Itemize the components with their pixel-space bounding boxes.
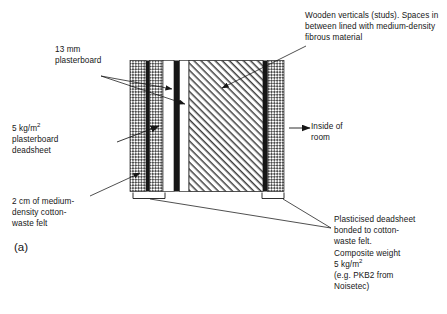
- wall-construction-diagram: Wooden verticals (studs). Spaces in betw…: [0, 0, 447, 314]
- label-inside-of-room: Inside of room: [311, 121, 391, 143]
- layer-plasterboard-13mm: [180, 61, 189, 192]
- plasticised-l5-exponent: 2: [359, 257, 362, 264]
- wall-section: [130, 61, 284, 192]
- layer-stud-cavity-fibrous: [189, 61, 263, 192]
- layer-plasticised-deadsheet-outer: [146, 61, 150, 192]
- dimension-brackets: [133, 193, 284, 199]
- layer-cotton-waste-felt-room-side: [268, 61, 284, 192]
- deadsheet5-rest: plasterboard deadsheet: [12, 135, 59, 155]
- leader-plasticised-a: [150, 199, 331, 228]
- leader-plasticised-b: [283, 199, 331, 228]
- layer-cotton-waste-felt-inner: [150, 61, 163, 192]
- plasticised-l5: 5 kg/m: [334, 260, 359, 269]
- plasticised-l6: (e.g. PKB2 from: [334, 271, 393, 280]
- label-wooden-verticals-studs: Wooden verticals (studs). Spaces in betw…: [305, 10, 441, 44]
- label-13mm-plasterboard: 13 mm plasterboard: [55, 44, 151, 66]
- plasticised-l1: Plasticised deadsheet: [334, 215, 415, 224]
- figure-id-label: (a): [14, 241, 28, 253]
- bracket-left: [133, 193, 165, 199]
- plasticised-l3: waste felt.: [334, 237, 372, 246]
- label-plasticised-deadsheet-note: Plasticised deadsheetbonded to cotton-wa…: [334, 214, 446, 292]
- plasticised-l4: Composite weight: [334, 249, 400, 258]
- plasticised-l2: bonded to cotton-: [334, 226, 399, 235]
- deadsheet5-value: 5 kg/m: [12, 124, 37, 133]
- layer-deadsheet-inner: [263, 61, 268, 192]
- layer-air-gap-left: [163, 61, 174, 192]
- layer-cotton-waste-felt-outer: [130, 61, 146, 192]
- label-2cm-cotton-waste-felt: 2 cm of medium- density cotton- waste fe…: [12, 196, 124, 230]
- plasticised-l7: Noisetec): [334, 282, 369, 291]
- layer-plasterboard-deadsheet: [174, 61, 180, 192]
- deadsheet5-exponent: 2: [37, 121, 40, 128]
- bracket-right: [262, 193, 284, 199]
- label-5kgm2-plasterboard-deadsheet: 5 kg/m2 plasterboard deadsheet: [12, 123, 116, 157]
